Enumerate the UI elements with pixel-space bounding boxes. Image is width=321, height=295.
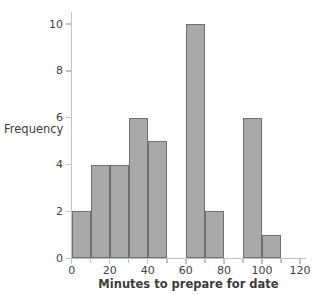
x-axis-title: Minutes to prepare for date	[71, 278, 306, 291]
y-axis-title: Frequency	[4, 123, 63, 136]
x-tick-minor-10	[90, 259, 91, 263]
y-tick-2	[66, 211, 72, 212]
bar-bin-20-30	[110, 165, 129, 259]
bar-bin-70-80	[205, 211, 224, 258]
y-tick-label-0: 0	[41, 253, 63, 264]
x-tick-label-0: 0	[57, 265, 87, 276]
x-tick-label-80: 80	[209, 265, 239, 276]
y-tick-10	[66, 23, 72, 24]
y-tick-8	[66, 70, 72, 71]
x-tick-minor-50	[166, 259, 167, 263]
x-tick-label-60: 60	[171, 265, 201, 276]
bar-bin-100-110	[262, 235, 281, 258]
bar-bin-60-70	[186, 24, 205, 258]
bar-bin-30-40	[129, 118, 148, 259]
y-tick-label-4: 4	[41, 159, 63, 170]
y-tick-label-2: 2	[41, 206, 63, 217]
x-tick-label-20: 20	[95, 265, 125, 276]
x-tick-label-40: 40	[133, 265, 163, 276]
bar-bin-10-20	[91, 165, 110, 259]
x-tick-minor-30	[128, 259, 129, 263]
bar-bin-90-100	[243, 118, 262, 259]
histogram-chart: 0246810 020406080100120 Frequency Minute…	[0, 0, 321, 295]
y-tick-6	[66, 117, 72, 118]
y-tick-4	[66, 164, 72, 165]
x-tick-minor-110	[280, 259, 281, 263]
bar-bin-0-10	[72, 211, 91, 258]
y-tick-label-8: 8	[41, 65, 63, 76]
x-tick-minor-90	[242, 259, 243, 263]
x-tick-minor-70	[204, 259, 205, 263]
y-tick-label-10: 10	[41, 19, 63, 30]
x-tick-label-120: 120	[285, 265, 315, 276]
bar-bin-40-50	[148, 141, 167, 258]
x-tick-label-100: 100	[247, 265, 277, 276]
